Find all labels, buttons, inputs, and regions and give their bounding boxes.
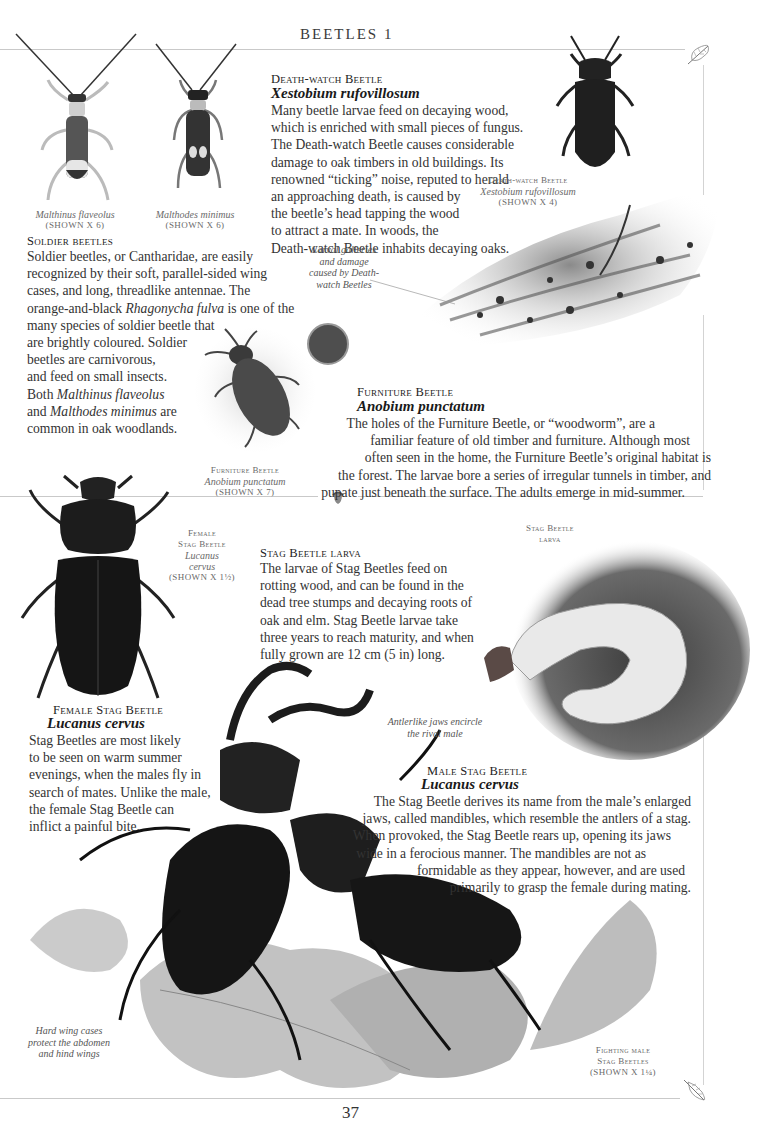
text-line: wide in a ferocious manner. The mandible… [330,845,691,862]
text-fragment: and [27,404,50,419]
text-line: oak and elm. Stag Beetle larvae take [260,612,480,629]
caption-latin: Lucanus [168,550,236,561]
page-number: 37 [342,1103,359,1123]
text-line: often seen in the home, the Furniture Be… [300,449,715,466]
text-line: The Stag Beetle derives its name from th… [330,793,691,810]
caption-scale: (SHOWN X 6) [0,220,150,231]
caption-scale: (SHOWN X 6) [130,220,260,231]
annotation-line: Antlerlike jaws encircle [365,716,505,728]
species-name: Malthinus flaveolus [57,387,165,402]
annotation-antlerlike-jaws: Antlerlike jaws encircle the rival male [365,716,505,739]
caption-line: Stag Beetle [168,539,236,550]
caption-latin: Malthinus flaveolus [0,209,150,220]
text-fragment: Both [27,387,57,402]
text-line: which is enriched with small pieces of f… [271,119,561,136]
text-line: orange-and-black Rhagonycha fulva is one… [27,300,327,317]
text-line: cases, and long, threadlike antennae. Th… [27,282,327,299]
caption-name: Furniture Beetle [190,465,300,476]
death-watch-beetle-illustration [545,32,645,182]
caption-malthodes: Malthodes minimus (SHOWN X 6) [130,209,260,231]
caption-fighting-males: Fighting male Stag Beetles (SHOWN X 1¼) [578,1045,668,1078]
annotation-line: the rival male [365,728,505,740]
text-line: The Death-watch Beetle causes considerab… [271,136,561,153]
male-stag-latin: Lucanus cervus [421,776,519,793]
text-line: familiar feature of old timber and furni… [300,432,715,449]
text-line: The holes of the Furniture Beetle, or “w… [300,415,715,432]
text-line: jaws, called mandibles, which resemble t… [320,810,691,827]
text-line: pupate just beneath the surface. The adu… [240,484,715,501]
exit-hole-illustration [306,322,350,366]
annotation-line: Hard wing cases [22,1025,116,1037]
caption-latin: cervus [168,561,236,572]
caption-line: Fighting male [578,1045,668,1056]
caption-scale: (SHOWN X 1¼) [578,1067,668,1078]
species-name: Rhagonycha fulva [126,301,225,316]
caption-line: Female [168,528,236,539]
death-watch-latin: Xestobium rufovillosum [271,85,420,102]
stag-larva-text: The larvae of Stag Beetles feed on rotti… [260,560,480,663]
caption-scale: (SHOWN X 1½) [168,572,236,583]
annotation-line: and damage [300,256,388,268]
text-line: damage to oak timbers in old buildings. … [271,154,561,171]
species-name: Malthodes minimus [50,404,157,419]
oak-leaf-corner-icon [686,42,712,66]
caption-latin: Anobium punctatum [190,476,300,487]
text-line: the forest. The larvae bore a series of … [240,467,715,484]
text-line: three years to reach maturity, and when [260,629,480,646]
stag-larva-heading: Stag Beetle larva [260,546,361,561]
annotation-line: and hind wings [22,1048,116,1060]
malthodes-minimus-illustration [148,40,248,210]
text-line: recognized by their soft, parallel-sided… [27,265,327,282]
annotation-line: protect the abdomen [22,1037,116,1049]
right-frame-rule-low [703,735,704,1085]
male-stag-text: The Stag Beetle derives its name from th… [330,793,691,896]
text-line: formidable as they appear, however, and … [330,862,691,879]
caption-furniture-beetle: Furniture Beetle Anobium punctatum (SHOW… [190,465,300,498]
malthinus-flaveolus-illustration [12,30,142,210]
annotation-line: Larval galleries [300,244,388,256]
text-line: rotting wood, and can be found in the [260,577,480,594]
furniture-beetle-latin: Anobium punctatum [357,398,485,415]
text-line: primarily to grasp the female during mat… [330,879,691,896]
annotation-line: caused by Death- [300,267,388,279]
larval-galleries-illustration [420,185,730,345]
caption-latin: Malthodes minimus [130,209,260,220]
caption-scale: (SHOWN X 7) [190,487,300,498]
caption-female-stag: Female Stag Beetle Lucanus cervus (SHOWN… [168,528,236,583]
caption-line: Stag Beetles [578,1056,668,1067]
text-line: dead tree stumps and decaying roots of [260,594,480,611]
text-fragment: is one of the [224,301,294,316]
right-frame-rule [703,65,704,195]
running-head: BEETLES 1 [300,26,460,43]
text-line: The larvae of Stag Beetles feed on [260,560,480,577]
furniture-beetle-text: The holes of the Furniture Beetle, or “w… [300,415,715,501]
annotation-leader-line [370,278,460,308]
text-line: Many beetle larvae feed on decaying wood… [271,102,561,119]
caption-malthinus: Malthinus flaveolus (SHOWN X 6) [0,209,150,231]
soldier-beetles-heading: Soldier beetles [27,234,113,249]
annotation-hard-wing-cases: Hard wing cases protect the abdomen and … [22,1025,116,1060]
text-fragment: orange-and-black [27,301,126,316]
text-line: When provoked, the Stag Beetle rears up,… [330,827,691,844]
text-fragment: are [157,404,177,419]
